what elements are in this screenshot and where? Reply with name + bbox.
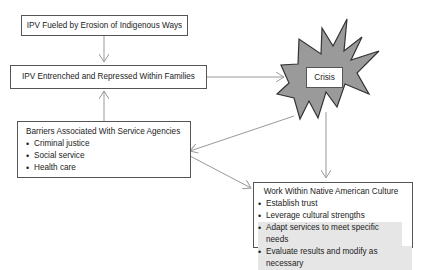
box-native-culture: Work Within Native American Culture Esta… (253, 182, 413, 248)
box-barriers: Barriers Associated With Service Agencie… (17, 121, 191, 178)
box-barriers-title: Barriers Associated With Service Agencie… (26, 127, 190, 137)
box-crisis: Crisis (306, 67, 343, 88)
arrow-crisis-to-barriers (190, 116, 294, 151)
native-list: Establish trust Leverage cultural streng… (258, 198, 412, 270)
native-item: Establish trust (258, 198, 412, 210)
native-item: Evaluate results and modify as necessary (258, 246, 412, 270)
box-crisis-label: Crisis (314, 73, 334, 83)
barriers-item: Health care (26, 162, 190, 174)
native-item: Leverage cultural strengths (258, 210, 412, 222)
box-erosion: IPV Fueled by Erosion of Indigenous Ways (21, 15, 188, 36)
barriers-item: Criminal justice (26, 138, 190, 150)
barriers-item: Social service (26, 150, 190, 162)
box-entrenched: IPV Entrenched and Repressed Within Fami… (10, 65, 207, 89)
barriers-list: Criminal justice Social service Health c… (26, 138, 190, 174)
arrow-barriers-to-native (190, 156, 251, 188)
box-erosion-label: IPV Fueled by Erosion of Indigenous Ways (27, 21, 182, 31)
box-entrenched-label: IPV Entrenched and Repressed Within Fami… (22, 72, 195, 82)
box-native-title: Work Within Native American Culture (258, 187, 412, 197)
native-item: Adapt services to meet specific needs (258, 222, 402, 246)
